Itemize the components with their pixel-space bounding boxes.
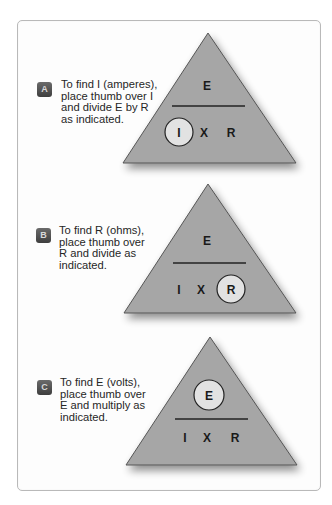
label-r: R: [231, 431, 240, 445]
caption-line: To find E (volts),: [60, 377, 160, 389]
label-i: I: [183, 431, 186, 445]
badge-c: C: [37, 380, 52, 395]
caption-line: E and multiply as: [60, 400, 160, 412]
label-e: E: [205, 389, 213, 403]
label-x: X: [203, 431, 211, 445]
ohms-law-triangle-c: E I X R: [0, 0, 332, 500]
caption-c: To find E (volts), place thumb over E an…: [60, 377, 160, 423]
caption-line: indicated.: [60, 412, 160, 424]
panel-c: E I X R C To find E (volts), place thumb…: [0, 0, 332, 150]
